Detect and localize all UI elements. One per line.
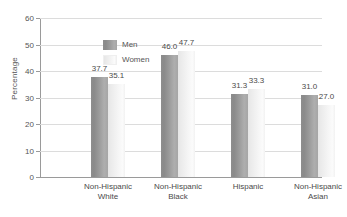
bar-men: 37.7 — [91, 77, 108, 177]
bar-men: 31.3 — [231, 94, 248, 177]
bar-women: 35.1 — [108, 84, 125, 177]
y-tick-mark — [36, 124, 40, 125]
category-label: Non-HispanicAsian — [282, 182, 347, 202]
y-tick-label: 10 — [10, 146, 34, 155]
category-label-line: Hispanic — [212, 182, 284, 192]
y-axis-title: Percentage — [10, 39, 19, 119]
y-tick-mark — [36, 18, 40, 19]
bar-value-label: 46.0 — [162, 42, 178, 51]
y-tick-mark — [36, 151, 40, 152]
y-tick-label: 60 — [10, 14, 34, 23]
bar-group: 31.027.0 — [301, 18, 335, 177]
legend-swatch-men-icon — [103, 40, 117, 50]
y-tick-label: 50 — [10, 40, 34, 49]
bar-women: 47.7 — [178, 51, 195, 177]
y-tick-label: 0 — [10, 173, 34, 182]
y-tick-label: 30 — [10, 93, 34, 102]
y-tick-mark — [36, 71, 40, 72]
bar-women: 33.3 — [248, 89, 265, 177]
bar-value-label: 31.3 — [232, 81, 248, 90]
category-label-line: Asian — [282, 192, 347, 202]
y-tick-label: 40 — [10, 67, 34, 76]
y-tick-mark — [36, 45, 40, 46]
legend-label-men: Men — [122, 40, 138, 49]
category-label: Non-HispanicBlack — [142, 182, 214, 202]
category-label-line: Black — [142, 192, 214, 202]
category-label: Hispanic — [212, 182, 284, 192]
y-tick-mark — [36, 98, 40, 99]
bar-value-label: 27.0 — [319, 92, 335, 101]
bar-value-label: 31.0 — [302, 82, 318, 91]
legend-label-women: Women — [122, 55, 149, 64]
bar-women: 27.0 — [318, 105, 335, 177]
bar-men: 31.0 — [301, 95, 318, 177]
bar-value-label: 33.3 — [249, 76, 265, 85]
x-axis-line — [40, 177, 322, 178]
category-label-line: Non-Hispanic — [142, 182, 214, 192]
legend-item-men: Men — [103, 38, 149, 51]
legend-swatch-women-icon — [103, 55, 117, 65]
y-tick-label: 20 — [10, 120, 34, 129]
legend-item-women: Women — [103, 53, 149, 66]
category-label-line: Non-Hispanic — [72, 182, 144, 192]
category-label: Non-HispanicWhite — [72, 182, 144, 202]
category-label-line: White — [72, 192, 144, 202]
y-tick-mark — [36, 177, 40, 178]
bar-men: 46.0 — [161, 55, 178, 177]
bar-value-label: 35.1 — [109, 71, 125, 80]
plot-area: 0102030405060 37.735.146.047.731.333.331… — [40, 18, 322, 178]
bar-group: 46.047.7 — [161, 18, 195, 177]
chart-legend: Men Women — [103, 38, 149, 68]
bar-group: 31.333.3 — [231, 18, 265, 177]
category-label-line: Non-Hispanic — [282, 182, 347, 192]
bar-value-label: 47.7 — [179, 38, 195, 47]
